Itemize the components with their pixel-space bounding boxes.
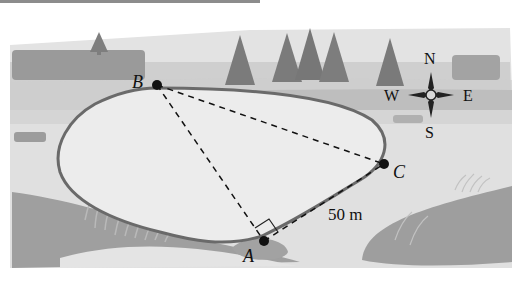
label-A: A [242,246,255,266]
shrub-small-right [393,115,423,123]
point-A [259,236,269,246]
compass-north: N [424,50,436,67]
compass-west: W [384,87,400,104]
point-C [379,159,389,169]
distance-label: 50 m [328,205,362,224]
hedge-left [12,50,145,80]
pond-diagram: B A C 50 m N E S W [0,0,530,294]
point-B [152,80,162,90]
hedge-right [452,55,500,80]
compass-east: E [463,87,473,104]
compass-south: S [425,124,434,141]
label-C: C [393,162,406,182]
shrub-small-left [14,132,46,142]
label-B: B [132,72,143,92]
